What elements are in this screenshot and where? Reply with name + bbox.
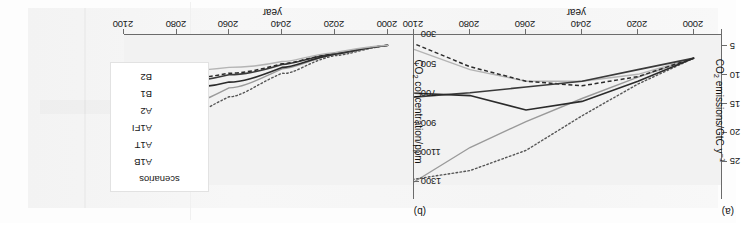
legend-label-a1b: A1B [134, 157, 152, 168]
legend-label-b2: B2 [140, 72, 152, 83]
legend-box: scenarios A1B A1T A1FI A2 B1 B2 [110, 62, 209, 192]
legend-item-a1fi[interactable]: A1FI [111, 119, 208, 135]
legend-label-b1: B1 [140, 89, 152, 100]
legend-item-a1b[interactable]: A1B [111, 153, 208, 169]
legend-item-a2[interactable]: A2 [111, 102, 208, 118]
curve-a-A2 [414, 58, 694, 182]
legend-label-a2: A2 [140, 106, 152, 117]
legend-item-a1t[interactable]: A1T [111, 136, 208, 152]
curve-a-B1 [414, 49, 694, 81]
legend-label-a1t: A1T [135, 140, 152, 151]
legend-label-a1fi: A1FI [132, 123, 152, 134]
legend-title: scenarios [111, 174, 208, 185]
legend-item-b2[interactable]: B2 [111, 68, 208, 84]
legend-item-b1[interactable]: B1 [111, 85, 208, 101]
